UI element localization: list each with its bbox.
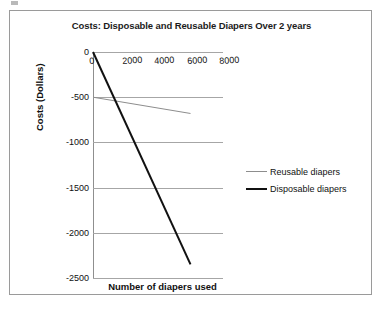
chart-legend: Reusable diapers Disposable diapers — [246, 163, 366, 197]
legend-item-disposable: Disposable diapers — [246, 180, 366, 197]
series-lines — [93, 52, 223, 278]
y-tick-label: -2500 — [66, 273, 89, 283]
chart-title: Costs: Disposable and Reusable Diapers O… — [10, 20, 373, 31]
scan-artifact — [11, 1, 18, 5]
legend-label-reusable: Reusable diapers — [270, 167, 340, 177]
legend-label-disposable: Disposable diapers — [270, 184, 347, 194]
x-axis-title: Number of diapers used — [70, 281, 255, 292]
series-line — [93, 97, 191, 113]
legend-swatch-disposable-icon — [246, 188, 267, 190]
y-tick-label: -500 — [71, 92, 89, 102]
y-tick-label: -1500 — [66, 183, 89, 193]
plot-area: 0-500-1000-1500-2000-2500 02000400060008… — [93, 52, 223, 278]
gridline — [93, 278, 223, 279]
y-tick-label: -2000 — [66, 228, 89, 238]
chart-figure: Costs: Disposable and Reusable Diapers O… — [9, 10, 372, 295]
legend-item-reusable: Reusable diapers — [246, 163, 366, 180]
y-tick-label: -1000 — [66, 137, 89, 147]
legend-swatch-reusable-icon — [246, 171, 267, 172]
series-line — [93, 52, 191, 264]
y-axis-title: Costs (Dollars) — [34, 63, 45, 131]
